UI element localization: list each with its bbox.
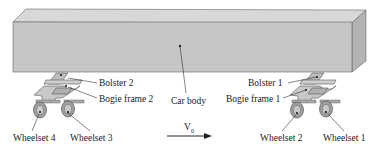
- bogie-1-shape: [290, 73, 340, 118]
- wheelset-4-label: Wheelset 4: [13, 134, 55, 144]
- wheelset-1-label: Wheelset 1: [323, 134, 365, 144]
- bogie-frame-2-label: Bogie frame 2: [99, 95, 153, 105]
- wheelset-2-label: Wheelset 2: [260, 134, 302, 144]
- velocity-subscript: 0: [191, 128, 194, 134]
- bolster-2-label: Bolster 2: [99, 79, 134, 89]
- bogie-frame-1-label: Bogie frame 1: [226, 95, 280, 105]
- velocity-label: V0: [184, 123, 194, 134]
- car-body-shape: [13, 9, 366, 72]
- wheelset-3-label: Wheelset 3: [70, 134, 112, 144]
- velocity-arrow: [167, 133, 212, 139]
- railway-vehicle-diagram: Car body Bolster 2 Bogie frame 2 Wheelse…: [0, 0, 380, 150]
- car-body-label: Car body: [171, 97, 206, 107]
- velocity-symbol: V: [184, 122, 191, 132]
- bolster-1-label: Bolster 1: [248, 79, 283, 89]
